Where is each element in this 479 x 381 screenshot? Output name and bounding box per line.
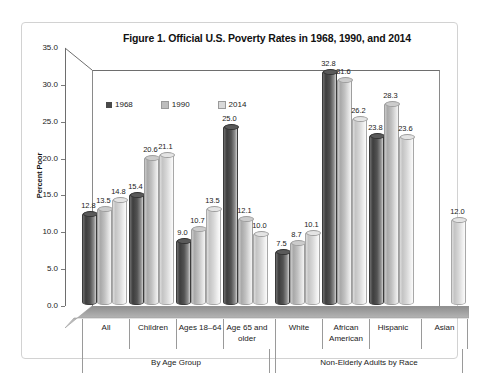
bar-value-label: 10.0 bbox=[247, 221, 272, 230]
bar-cap bbox=[452, 217, 467, 223]
bar[interactable]: 13.5 bbox=[97, 209, 110, 305]
category-label: African American bbox=[322, 319, 369, 349]
category-label: Ages 18–64 bbox=[176, 319, 223, 349]
y-tick-label: 35.0 bbox=[28, 43, 58, 52]
bar-value-label: 23.6 bbox=[393, 124, 418, 133]
bar[interactable]: 23.6 bbox=[399, 137, 412, 305]
category-label: All bbox=[82, 319, 129, 349]
bar-group: 12.0 bbox=[421, 73, 467, 305]
category-label: Age 65 and older bbox=[223, 319, 270, 349]
bar-cap bbox=[160, 152, 175, 158]
category-label: White bbox=[275, 319, 322, 349]
bar-cylinder bbox=[305, 231, 320, 305]
bar-cap bbox=[224, 124, 239, 130]
category-label: Asian bbox=[421, 319, 468, 349]
bar[interactable]: 12.1 bbox=[238, 219, 251, 305]
y-axis-title: Percent Poor bbox=[35, 141, 44, 211]
bar-cylinder bbox=[290, 241, 305, 305]
bar-value-label: 12.1 bbox=[232, 206, 257, 215]
bar[interactable]: 20.6 bbox=[144, 158, 157, 305]
y-tick-label: 5.0 bbox=[28, 264, 58, 273]
bar[interactable]: 12.8 bbox=[82, 214, 95, 305]
bar-value-label: 12.0 bbox=[445, 207, 470, 216]
bar-cap bbox=[276, 249, 291, 255]
bar-cap bbox=[192, 226, 207, 232]
bar-cylinder bbox=[238, 217, 253, 305]
bar[interactable]: 10.1 bbox=[305, 233, 318, 305]
bar-cap bbox=[130, 192, 145, 198]
bar[interactable]: 23.8 bbox=[369, 136, 382, 305]
y-tick-label: 25.0 bbox=[28, 117, 58, 126]
bar[interactable]: 7.5 bbox=[275, 252, 288, 305]
bar-cylinder bbox=[129, 193, 144, 305]
y-tick-mark bbox=[61, 85, 65, 86]
bar-cap bbox=[353, 116, 368, 122]
category-supergroup-label: Non-Elderly Adults by Race bbox=[275, 349, 463, 373]
bar-cap bbox=[177, 238, 192, 244]
y-tick-mark bbox=[61, 232, 65, 233]
bar-value-label: 28.3 bbox=[378, 91, 403, 100]
bar[interactable]: 10.0 bbox=[253, 234, 266, 305]
y-tick-label: 15.0 bbox=[28, 190, 58, 199]
bar-groups: 12.813.514.815.420.621.19.010.713.525.01… bbox=[74, 23, 460, 360]
category-axis: AllChildrenAges 18–64Age 65 and olderWhi… bbox=[65, 319, 469, 360]
y-tick-mark bbox=[61, 269, 65, 270]
bar-value-label: 21.1 bbox=[153, 142, 178, 151]
bar-value-label: 31.6 bbox=[331, 67, 356, 76]
bar-cap bbox=[145, 155, 160, 161]
bar-cylinder bbox=[144, 156, 159, 305]
bar[interactable]: 9.0 bbox=[176, 241, 189, 305]
bar-group: 12.813.514.8 bbox=[82, 73, 128, 305]
bar-cap bbox=[291, 240, 306, 246]
bar-cylinder bbox=[176, 239, 191, 305]
bar[interactable]: 32.8 bbox=[322, 72, 335, 305]
bar-cylinder bbox=[399, 135, 414, 305]
bar-cylinder bbox=[275, 250, 290, 305]
category-supergroup-label: By Age Group bbox=[82, 349, 270, 373]
bar-group: 32.831.626.2 bbox=[322, 73, 368, 305]
bar-group: 15.420.621.1 bbox=[129, 73, 175, 305]
bar-cylinder bbox=[82, 212, 97, 305]
bar-cylinder bbox=[322, 70, 337, 305]
bar-cylinder bbox=[369, 134, 384, 305]
bar-cap bbox=[98, 206, 113, 212]
bar-cap bbox=[83, 211, 98, 217]
bar-cap bbox=[370, 133, 385, 139]
y-tick-mark bbox=[61, 306, 65, 307]
y-tick-label: 0.0 bbox=[28, 301, 58, 310]
bar[interactable]: 28.3 bbox=[384, 104, 397, 305]
bar-cap bbox=[385, 101, 400, 107]
bar[interactable]: 15.4 bbox=[129, 195, 142, 305]
bar[interactable]: 12.0 bbox=[451, 220, 464, 305]
y-tick-label: 20.0 bbox=[28, 154, 58, 163]
bar-value-label: 10.1 bbox=[299, 220, 324, 229]
bar[interactable]: 8.7 bbox=[290, 243, 303, 305]
category-label: Children bbox=[129, 319, 176, 349]
bar-group: 7.58.710.1 bbox=[275, 73, 321, 305]
bar[interactable]: 13.5 bbox=[206, 209, 219, 305]
bar-cylinder bbox=[352, 117, 367, 305]
y-tick-label: 30.0 bbox=[28, 80, 58, 89]
bar-group: 25.012.110.0 bbox=[223, 73, 269, 305]
bar[interactable]: 10.7 bbox=[191, 229, 204, 305]
bar-value-label: 13.5 bbox=[200, 196, 225, 205]
bar-cylinder bbox=[191, 227, 206, 305]
bar[interactable]: 25.0 bbox=[223, 127, 236, 305]
bar-cylinder bbox=[206, 207, 221, 305]
bar-group: 23.828.323.6 bbox=[369, 73, 415, 305]
y-tick-label: 10.0 bbox=[28, 227, 58, 236]
bar-value-label: 26.2 bbox=[346, 106, 371, 115]
bar[interactable]: 26.2 bbox=[352, 119, 365, 305]
bar-cap bbox=[306, 230, 321, 236]
bar-cap bbox=[113, 197, 128, 203]
y-axis-line bbox=[65, 48, 66, 306]
chart-stage: Figure 1. Official U.S. Poverty Rates in… bbox=[22, 23, 459, 360]
bar[interactable]: 14.8 bbox=[112, 200, 125, 305]
y-tick-mark bbox=[61, 159, 65, 160]
bar-cap bbox=[400, 134, 415, 140]
bar-value-label: 25.0 bbox=[217, 114, 242, 123]
y-tick-mark bbox=[61, 122, 65, 123]
y-tick-mark bbox=[61, 195, 65, 196]
figure-frame: Figure 1. Official U.S. Poverty Rates in… bbox=[21, 22, 458, 359]
bar-cap bbox=[207, 206, 222, 212]
